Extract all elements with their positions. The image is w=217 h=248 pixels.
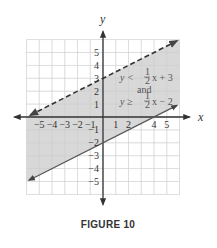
inequality-1-rhs: x + 3 <box>152 72 173 83</box>
x-tick-label: 4 <box>152 119 157 130</box>
x-tick-label: 1 <box>113 119 118 130</box>
x-tick-label: −3 <box>59 119 70 130</box>
y-tick-label: 3 <box>94 73 99 84</box>
y-tick-label: −2 <box>88 137 99 148</box>
x-tick-label: 2 <box>126 119 131 130</box>
y-tick-label: 1 <box>94 99 99 110</box>
y-tick-label: 4 <box>94 60 99 71</box>
x-tick-label: −2 <box>72 119 83 130</box>
x-tick-label: −5 <box>34 119 45 130</box>
x-axis-label: x <box>197 110 204 124</box>
half-denominator-2: 2 <box>145 99 150 110</box>
y-axis-label: y <box>99 12 106 26</box>
y-tick-label: 2 <box>94 86 99 97</box>
x-tick-label: −4 <box>47 119 58 130</box>
inequality-graph: −5−4−3−2−11245 54321−1−2−3−4−5 x y y < 1… <box>0 0 217 248</box>
x-tick-label: 5 <box>164 119 169 130</box>
figure-caption: FIGURE 10 <box>81 219 136 230</box>
y-tick-label: 5 <box>94 47 99 58</box>
inequality-2-rhs: x − 2 <box>152 96 173 107</box>
y-tick-label: −4 <box>88 163 99 174</box>
y-tick-label: −1 <box>88 124 99 135</box>
y-tick-label: −3 <box>88 150 99 161</box>
y-tick-label: −5 <box>88 176 99 187</box>
inequality-1-lhs: y < <box>119 72 134 83</box>
inequality-2-lhs: y ≥ <box>119 96 133 107</box>
